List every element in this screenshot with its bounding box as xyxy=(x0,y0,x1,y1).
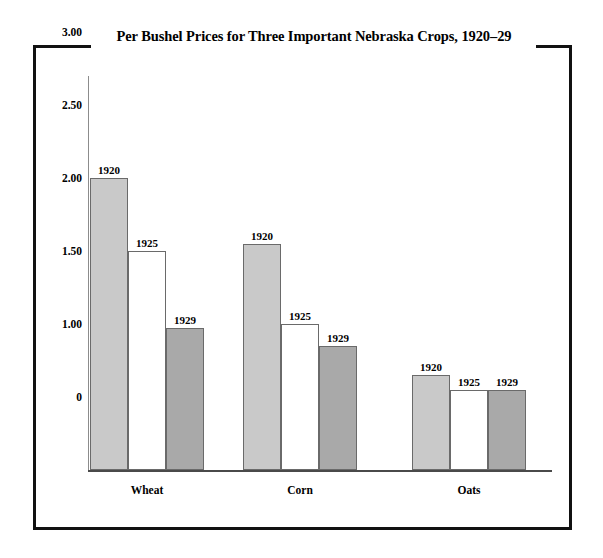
bar-series-label: 1929 xyxy=(174,314,196,326)
bar-series-label: 1925 xyxy=(458,376,480,388)
bar-wheat-1920: 1920 xyxy=(90,178,128,470)
category-label-corn: Corn xyxy=(287,484,313,496)
bar-corn-1920: 1920 xyxy=(243,244,281,470)
bar-series-label: 1929 xyxy=(496,376,518,388)
category-label-wheat: Wheat xyxy=(131,484,164,496)
chart-figure: Per Bushel Prices for Three Important Ne… xyxy=(0,0,603,558)
bar-series-label: 1929 xyxy=(327,332,349,344)
bar-series-label: 1920 xyxy=(251,230,273,242)
category-label-oats: Oats xyxy=(458,484,481,496)
bar-oats-1925: 1925 xyxy=(450,390,488,470)
bar-wheat-1925: 1925 xyxy=(128,251,166,470)
plot-area: 192019251929192019251929192019251929 xyxy=(0,0,603,558)
bar-wheat-1929: 1929 xyxy=(166,328,204,470)
bar-series-label: 1920 xyxy=(98,164,120,176)
bar-series-label: 1925 xyxy=(136,237,158,249)
bar-oats-1920: 1920 xyxy=(412,375,450,470)
bar-corn-1929: 1929 xyxy=(319,346,357,470)
bar-series-label: 1920 xyxy=(420,361,442,373)
bar-series-label: 1925 xyxy=(289,310,311,322)
bar-corn-1925: 1925 xyxy=(281,324,319,470)
bar-oats-1929: 1929 xyxy=(488,390,526,470)
